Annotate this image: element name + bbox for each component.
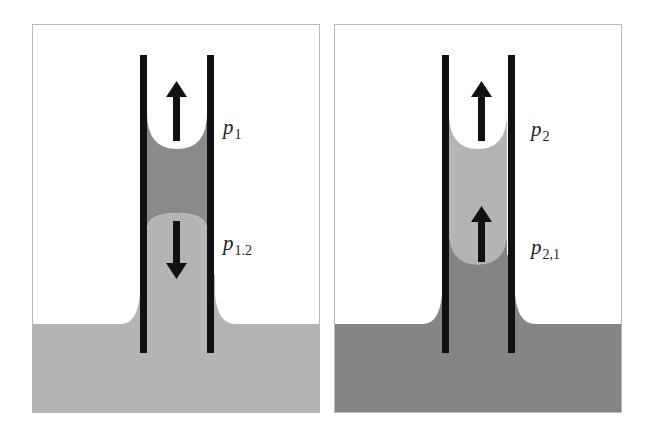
pressure-label-p12: p1.2	[223, 233, 252, 258]
panel-right: p2 p2,1	[334, 24, 622, 413]
tube-wall-left	[442, 55, 449, 353]
arrow-up-icon	[166, 81, 187, 141]
reservoir-liquid	[33, 295, 140, 413]
arrow-up-icon	[471, 81, 492, 141]
pressure-label-p21: p2,1	[531, 237, 560, 262]
panel-left: p1 p1.2	[32, 24, 320, 413]
tube-wall-left	[140, 55, 147, 353]
capillary-diagram-left	[33, 25, 320, 413]
capillary-diagram-right	[335, 25, 622, 413]
pressure-label-p1: p1	[223, 117, 242, 142]
tube-wall-right	[508, 55, 515, 353]
pressure-label-p2: p2	[531, 119, 550, 144]
tube-wall-right	[207, 55, 214, 353]
reservoir-liquid	[335, 295, 442, 413]
